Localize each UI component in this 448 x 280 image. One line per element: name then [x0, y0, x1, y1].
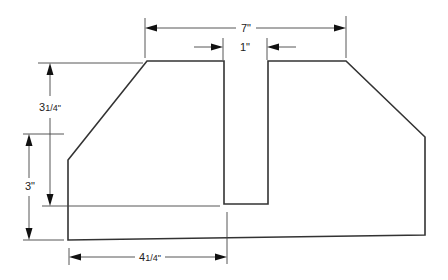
arrow-7-right-icon: [334, 25, 346, 32]
arrow-3-1-4-down-icon: [47, 194, 54, 206]
arrow-1-right-icon: [267, 44, 279, 51]
label-4-1-4-frac: 1/4": [145, 253, 161, 263]
part-outline: [68, 61, 425, 240]
label-3-inch: 3": [25, 180, 35, 192]
arrow-4-1-4-right-icon: [215, 254, 227, 261]
arrow-7-left-icon: [145, 25, 157, 32]
arrow-4-1-4-left-icon: [69, 254, 81, 261]
arrow-3-down-icon: [26, 228, 33, 240]
technical-drawing: 7" 1" 31/4" 3" 41/4": [0, 0, 448, 280]
label-3-1-4-inch: 31/4": [39, 101, 61, 113]
arrow-3-up-icon: [26, 134, 33, 146]
arrow-3-1-4-up-icon: [47, 63, 54, 75]
arrow-1-left-icon: [211, 44, 223, 51]
label-1-inch: 1": [240, 41, 250, 53]
label-7-inch: 7": [241, 22, 251, 34]
label-3-1-4-frac: 1/4": [45, 103, 61, 113]
label-4-1-4-inch: 41/4": [139, 251, 161, 263]
